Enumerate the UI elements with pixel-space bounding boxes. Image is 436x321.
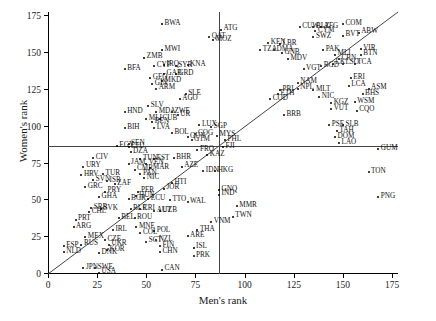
- data-point: [112, 229, 114, 231]
- data-point: [159, 118, 161, 120]
- data-point: [185, 93, 187, 95]
- data-point-label: MDV: [290, 55, 307, 62]
- data-point: [269, 98, 271, 100]
- data-point-label: MKD: [165, 77, 182, 84]
- data-point-label: ARG: [76, 223, 91, 230]
- data-point: [153, 127, 155, 129]
- data-point: [128, 163, 130, 165]
- data-point: [187, 201, 189, 203]
- data-point-label: CHN: [163, 248, 178, 255]
- data-point: [348, 85, 350, 87]
- data-point-label: SLE: [188, 90, 201, 97]
- data-point-label: LTU: [131, 143, 144, 150]
- data-point: [124, 68, 126, 70]
- x-tick-label: 150: [336, 280, 350, 290]
- data-point-label: NIC: [322, 93, 334, 100]
- data-point: [208, 36, 210, 38]
- data-point: [63, 245, 65, 247]
- data-point: [153, 210, 155, 212]
- data-point: [161, 269, 163, 271]
- data-point-label: ARE: [190, 232, 204, 239]
- data-point-label: CQO: [359, 106, 374, 113]
- data-point: [297, 88, 299, 90]
- data-point: [273, 49, 275, 51]
- data-point: [161, 49, 163, 51]
- x-tick-mark: [146, 274, 147, 278]
- data-point-label: TTO: [172, 196, 186, 203]
- data-point: [312, 89, 314, 91]
- data-points-layer: BWAMWIBFAGEOGINARMHNDBIHEGYSENCIVURYHRVS…: [48, 12, 398, 274]
- data-point-label: DNK: [102, 249, 118, 256]
- scatter-plot-figure: 0255075100125150175 0255075100125150175 …: [0, 0, 436, 321]
- data-point: [356, 110, 358, 112]
- data-point: [124, 111, 126, 113]
- data-point-label: RUS: [84, 240, 98, 247]
- data-point: [153, 230, 155, 232]
- data-point: [80, 244, 82, 246]
- data-point: [303, 68, 305, 70]
- data-point-label: PNG: [381, 193, 395, 200]
- data-point: [354, 101, 356, 103]
- data-point: [198, 124, 200, 126]
- data-point-label: ATG: [224, 25, 238, 32]
- data-point: [377, 196, 379, 198]
- data-point: [161, 23, 163, 25]
- data-point: [297, 82, 299, 84]
- data-point: [175, 73, 177, 75]
- x-tick-mark: [195, 274, 196, 278]
- data-point-label: BHR: [176, 154, 191, 161]
- data-point: [163, 64, 165, 66]
- data-point-label: BFA: [127, 65, 140, 72]
- data-point: [104, 239, 106, 241]
- data-point: [193, 255, 195, 257]
- data-point-label: GRD: [178, 70, 193, 77]
- data-point: [210, 221, 212, 223]
- data-point-label: IRQ: [167, 61, 179, 68]
- data-point-label: TON: [371, 168, 386, 175]
- data-point: [236, 205, 238, 207]
- data-point: [287, 58, 289, 60]
- data-point: [350, 77, 352, 79]
- data-point: [330, 102, 332, 104]
- data-point-label: SVK: [104, 205, 118, 212]
- data-point-label: BRB: [286, 111, 300, 118]
- data-point-label: SGP: [214, 123, 227, 130]
- data-point: [94, 267, 96, 269]
- data-point: [299, 26, 301, 28]
- data-point: [155, 88, 157, 90]
- data-point: [63, 251, 65, 253]
- data-point: [169, 199, 171, 201]
- data-point-label: URY: [86, 162, 101, 169]
- data-point: [212, 39, 214, 41]
- data-point: [179, 98, 181, 100]
- data-point: [187, 64, 189, 66]
- data-point: [194, 133, 196, 135]
- data-point-label: CIV: [96, 154, 108, 161]
- data-point: [193, 247, 195, 249]
- data-point: [175, 65, 177, 67]
- data-point: [139, 208, 141, 210]
- data-point-label: ROU: [137, 214, 152, 221]
- x-tick-label: 25: [92, 280, 102, 290]
- data-point-label: GUM: [381, 145, 398, 152]
- data-point: [155, 239, 157, 241]
- x-tick-mark: [392, 274, 393, 278]
- data-point: [116, 145, 118, 147]
- x-tick-label: 125: [287, 280, 301, 290]
- x-tick-mark: [48, 274, 49, 278]
- data-point: [73, 226, 75, 228]
- data-point-label: MOZ: [216, 36, 232, 43]
- data-point-label: IRL: [115, 226, 127, 233]
- data-point-label: CAN: [165, 265, 180, 272]
- data-point-label: KNA: [190, 61, 206, 68]
- y-tick-label: 175: [27, 11, 41, 21]
- data-point: [143, 177, 145, 179]
- data-point-label: ISL: [196, 243, 207, 250]
- data-point-label: WAL: [190, 198, 206, 205]
- data-point: [139, 158, 141, 160]
- data-point: [232, 216, 234, 218]
- data-point: [128, 198, 130, 200]
- data-point: [159, 251, 161, 253]
- data-point: [151, 121, 153, 123]
- data-point-label: VUT: [334, 105, 349, 112]
